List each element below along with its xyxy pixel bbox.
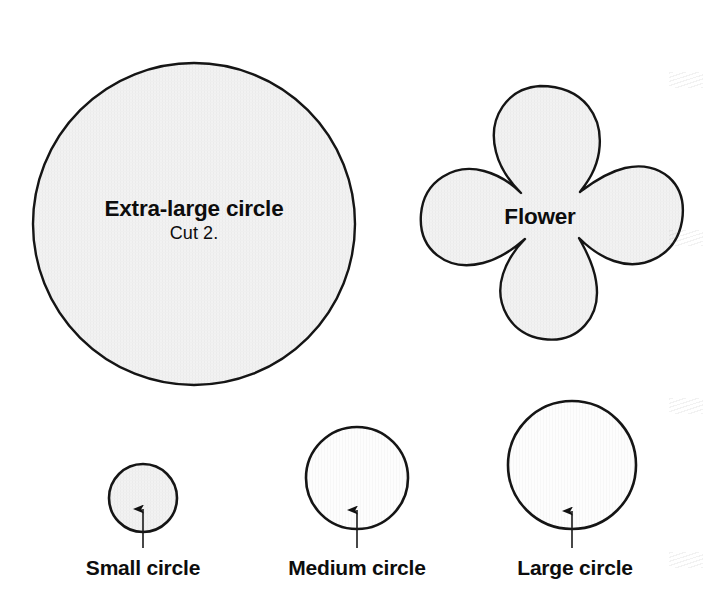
flower-label: Flower xyxy=(420,204,660,229)
flower-label-group: Flower xyxy=(420,204,660,229)
shape-large-circle xyxy=(508,401,636,529)
medium-circle-caption: Medium circle xyxy=(242,556,472,580)
extra-large-circle-label: Extra-large circle xyxy=(0,196,388,221)
large-circle-caption: Large circle xyxy=(470,556,680,580)
pattern-shapes-canvas xyxy=(0,0,705,611)
pattern-sheet: Extra-large circle Cut 2. Flower Small c… xyxy=(0,0,705,611)
small-circle-caption: Small circle xyxy=(38,556,248,580)
extra-large-circle-label-group: Extra-large circle Cut 2. xyxy=(0,196,388,243)
extra-large-circle-instruction: Cut 2. xyxy=(0,223,388,243)
